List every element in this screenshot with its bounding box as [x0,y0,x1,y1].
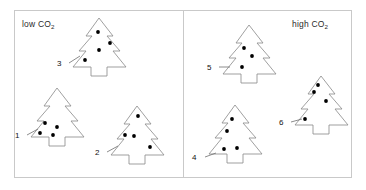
panel-title-high-subscript: 2 [325,23,329,30]
tree-label-1: 1 [15,132,19,140]
panel-title-low-text: low CO [22,19,51,29]
tree-dot [250,54,254,58]
tree-dot [230,117,234,121]
tree-outline-6 [295,76,348,134]
tree-outline-5 [223,25,276,83]
tree-dot [51,133,55,137]
tree-dot [222,147,226,151]
tree-graphic-4 [204,103,266,165]
panel-title-low-co2: low CO2 [22,20,55,29]
tree-dot [324,99,328,103]
tree-outline-1 [31,88,84,146]
tree-outline-3 [73,18,126,76]
tree-dot [242,46,246,50]
tree-dot [136,114,140,118]
tree-dot [225,129,229,133]
tree-dot [235,146,239,150]
tree-graphic-5 [218,23,280,85]
panel-title-high-co2: high CO2 [292,20,328,29]
tree-dot [132,134,136,138]
tree-dot [97,48,101,52]
tree-label-2: 2 [95,149,99,157]
tree-dot [43,121,47,125]
tree-graphic-3 [68,16,130,78]
tree-outline-4 [209,105,262,163]
tree-dot [83,58,87,62]
tree-label-6: 6 [279,119,283,127]
tree-dot [303,117,307,121]
tree-graphic-1 [26,86,88,148]
tree-dot [312,90,316,94]
tree-graphic-6 [290,74,352,136]
tree-dot [148,145,152,149]
tree-dot [240,65,244,69]
tree-dot [55,125,59,129]
tree-dot [38,131,42,135]
panel-title-low-subscript: 2 [51,23,55,30]
tree-dot [96,30,100,34]
tree-dot [316,83,320,87]
figure-root: low CO2 high CO2 312564 [0,0,366,190]
tree-label-4: 4 [192,154,196,162]
tree-graphic-2 [106,104,168,166]
panel-title-high-text: high CO [292,19,325,29]
tree-dot [123,133,127,137]
tree-label-5: 5 [207,64,211,72]
tree-dot [108,41,112,45]
tree-label-3: 3 [57,60,61,68]
